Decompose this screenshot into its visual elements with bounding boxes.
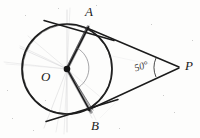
tangent-segment-bp — [88, 68, 179, 110]
label-point-b: B — [91, 119, 99, 132]
tangent-segment-ap — [87, 28, 179, 67]
angle-arc-o — [77, 48, 89, 87]
label-center-o: O — [41, 70, 50, 83]
tangent-point-b-dot — [88, 109, 90, 111]
figure-canvas — [0, 0, 200, 138]
label-point-p: P — [185, 59, 193, 72]
radius-ob — [67, 69, 93, 112]
tangent-line-through-a — [44, 21, 114, 41]
center-point-dot — [64, 66, 71, 73]
pencil-construction-marks — [4, 8, 150, 134]
angle-arc-p — [154, 58, 156, 77]
tangent-point-a-dot — [87, 27, 89, 29]
label-point-a: A — [85, 5, 93, 18]
geometry-figure: A B O P 50° — [0, 0, 200, 138]
